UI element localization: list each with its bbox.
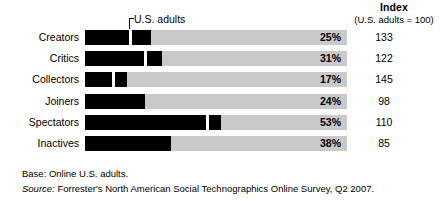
bar-segment-main [85, 94, 145, 109]
chart-row: Critics31%122 [0, 51, 440, 66]
bar-track: 17% [85, 72, 347, 87]
pointer-stem [129, 18, 130, 29]
bar-track: 24% [85, 94, 347, 109]
source-note: Source: Forrester's North American Socia… [22, 183, 374, 194]
bar-value-label: 53% [320, 115, 341, 130]
row-category-label: Critics [0, 51, 79, 66]
bar-track: 25% [85, 30, 347, 45]
bar-segment-main [85, 30, 129, 45]
bar-segment-main [85, 51, 144, 66]
bar-segment-secondary [132, 30, 151, 45]
source-note-text: Forrester's North American Social Techno… [57, 183, 374, 194]
bar-value-label: 24% [320, 94, 341, 109]
row-category-label: Joiners [0, 94, 79, 109]
bar-track: 53% [85, 115, 347, 130]
bar-segment-main [85, 72, 112, 87]
chart-row: Spectators53%110 [0, 115, 440, 130]
index-header-subtitle: (U.S. adults = 100) [348, 14, 440, 26]
chart-row: Joiners24%98 [0, 94, 440, 109]
bar-track: 38% [85, 136, 347, 151]
row-category-label: Collectors [0, 72, 79, 87]
bar-value-label: 31% [320, 51, 341, 66]
chart-row: Collectors17%145 [0, 72, 440, 87]
social-technographics-ladder-chart: Index (U.S. adults = 100) U.S. adults Cr… [0, 0, 440, 201]
bar-value-label: 17% [320, 72, 341, 87]
bar-track: 31% [85, 51, 347, 66]
chart-row: Inactives38%85 [0, 136, 440, 151]
index-value: 122 [348, 51, 420, 66]
index-value: 98 [348, 94, 420, 109]
source-note-label: Source: [22, 183, 55, 194]
row-category-label: Spectators [0, 115, 79, 130]
index-value: 85 [348, 136, 420, 151]
us-adults-annotation-label: U.S. adults [134, 14, 185, 25]
base-note: Base: Online U.S. adults. [22, 168, 128, 179]
bar-segment-secondary [209, 115, 221, 130]
bar-segment-main [85, 115, 206, 130]
index-value: 145 [348, 72, 420, 87]
bar-segment-main [85, 136, 171, 151]
chart-row: Creators25%133 [0, 30, 440, 45]
row-category-label: Creators [0, 30, 79, 45]
bar-value-label: 38% [320, 136, 341, 151]
bar-segment-secondary [147, 51, 162, 66]
row-category-label: Inactives [0, 136, 79, 151]
index-column-header: Index (U.S. adults = 100) [348, 1, 440, 26]
bar-segment-secondary [115, 72, 127, 87]
index-header-title: Index [348, 1, 440, 13]
index-value: 110 [348, 115, 420, 130]
index-value: 133 [348, 30, 420, 45]
bar-value-label: 25% [320, 30, 341, 45]
